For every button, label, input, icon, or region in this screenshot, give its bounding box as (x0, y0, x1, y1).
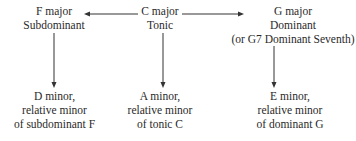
node-g-major-dominant: G major Dominant (or G7 Dominant Seventh… (230, 4, 356, 46)
arrowhead-f-to-d (52, 82, 57, 88)
node-f-major-subdominant: F major Subdominant (14, 4, 94, 32)
node-line3-key: C (175, 118, 183, 130)
node-a-minor: A minor, relative minor of tonic C (112, 89, 208, 131)
node-role: Dominant (230, 18, 356, 32)
node-title: G major (230, 4, 356, 18)
node-e-minor: E minor, relative minor of dominant G (232, 89, 348, 131)
arrowhead-c-to-a (161, 82, 166, 88)
node-note: (or G7 Dominant Seventh) (230, 32, 356, 46)
node-title: E minor, (232, 89, 348, 103)
node-line3-prefix: of tonic (137, 118, 175, 130)
node-c-major-tonic: C major Tonic (125, 4, 195, 32)
node-title: F major (14, 4, 94, 18)
node-title: A minor, (112, 89, 208, 103)
node-line2: relative minor (232, 103, 348, 117)
node-line3-prefix: of dominant (256, 118, 315, 130)
node-title: D minor, (2, 89, 107, 103)
node-line3: of tonic C (112, 117, 208, 131)
node-line2: relative minor (2, 103, 107, 117)
node-line3: of subdominant F (2, 117, 107, 131)
node-title: C major (125, 4, 195, 18)
node-role: Subdominant (14, 18, 94, 32)
node-d-minor: D minor, relative minor of subdominant F (2, 89, 107, 131)
node-line3-key: G (315, 118, 323, 130)
node-role: Tonic (125, 18, 195, 32)
node-line3-key: F (89, 118, 95, 130)
node-line2: relative minor (112, 103, 208, 117)
node-line3: of dominant G (232, 117, 348, 131)
node-line3-prefix: of subdominant (14, 118, 89, 130)
arrowhead-g-to-e (272, 82, 277, 88)
